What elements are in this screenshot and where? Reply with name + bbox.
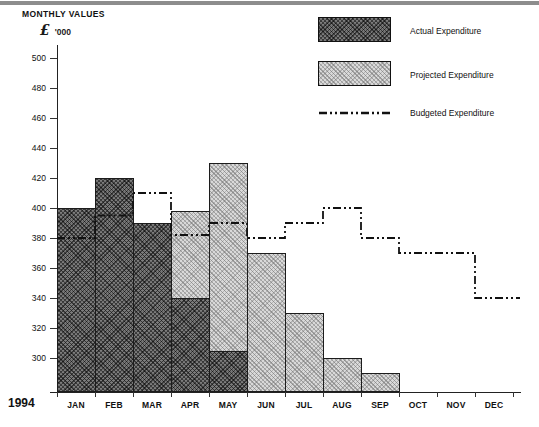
y-axis-tick-300 <box>50 358 57 359</box>
legend-item-projected: Projected Expenditure <box>318 61 539 86</box>
month-label-nov: NOV <box>437 400 475 410</box>
y-axis-tick-480 <box>50 88 57 89</box>
title-monthly-values: MONTHLY VALUES <box>22 9 105 19</box>
y-tick-label-380: 380 <box>20 233 46 243</box>
y-tick-label-480: 480 <box>20 83 46 93</box>
legend-item-budgeted: Budgeted Expenditure <box>318 105 539 121</box>
bar-projected-jun <box>247 253 286 392</box>
y-tick-label-300: 300 <box>20 353 46 363</box>
month-label-oct: OCT <box>399 400 437 410</box>
bar-projected-aug <box>323 358 362 392</box>
y-tick-label-440: 440 <box>20 143 46 153</box>
x-axis-tick-3 <box>171 392 172 397</box>
legend-item-actual: Actual Expenditure <box>318 17 539 42</box>
y-tick-label-340: 340 <box>20 293 46 303</box>
legend-label-projected: Projected Expenditure <box>410 70 494 80</box>
month-label-aug: AUG <box>323 400 361 410</box>
y-tick-label-500: 500 <box>20 53 46 63</box>
x-axis-tick-12 <box>513 392 514 397</box>
month-label-jul: JUL <box>285 400 323 410</box>
bar-actual-feb <box>95 178 134 392</box>
actual-swatch-icon <box>318 17 391 42</box>
month-label-jan: JAN <box>57 400 95 410</box>
bar-projected-sep <box>361 373 400 392</box>
y-axis-tick-360 <box>50 268 57 269</box>
legend: Actual Expenditure Projected Expenditure… <box>318 0 539 130</box>
x-axis-tick-9 <box>399 392 400 397</box>
x-axis-tick-6 <box>285 392 286 397</box>
legend-label-budgeted: Budgeted Expenditure <box>410 108 494 118</box>
bar-actual-apr <box>171 298 210 392</box>
y-axis-tick-440 <box>50 148 57 149</box>
budget-line-sample-icon <box>318 105 393 121</box>
pound-sign: £ <box>40 22 50 38</box>
bar-projected-jul <box>285 313 324 392</box>
month-label-may: MAY <box>209 400 247 410</box>
x-axis-tick-8 <box>361 392 362 397</box>
bar-actual-jan <box>57 208 96 392</box>
bar-actual-may <box>209 351 248 393</box>
month-label-feb: FEB <box>95 400 133 410</box>
y-tick-label-420: 420 <box>20 173 46 183</box>
x-axis-tick-1 <box>95 392 96 397</box>
projected-swatch-icon <box>318 61 391 86</box>
x-axis-tick-7 <box>323 392 324 397</box>
y-tick-label-400: 400 <box>20 203 46 213</box>
y-axis-tick-460 <box>50 118 57 119</box>
x-axis-tick-10 <box>437 392 438 397</box>
x-axis-tick-0 <box>57 392 58 397</box>
y-axis-tick-500 <box>50 58 57 59</box>
month-label-sep: SEP <box>361 400 399 410</box>
month-label-dec: DEC <box>475 400 513 410</box>
y-tick-label-320: 320 <box>20 323 46 333</box>
x-axis-tick-4 <box>209 392 210 397</box>
y-axis-tick-340 <box>50 298 57 299</box>
y-tick-label-360: 360 <box>20 263 46 273</box>
x-axis-tick-11 <box>475 392 476 397</box>
x-axis-tick-2 <box>133 392 134 397</box>
y-axis-tick-400 <box>50 208 57 209</box>
y-tick-label-460: 460 <box>20 113 46 123</box>
bar-actual-mar <box>133 223 172 392</box>
month-label-jun: JUN <box>247 400 285 410</box>
month-label-mar: MAR <box>133 400 171 410</box>
legend-label-actual: Actual Expenditure <box>410 26 481 36</box>
units-label: '000 <box>55 27 71 37</box>
y-axis-tick-320 <box>50 328 57 329</box>
title-units-row: £'000 <box>22 21 105 39</box>
chart-page: MONTHLY VALUES £'000 Actual Expenditure … <box>0 0 539 427</box>
y-axis-tick-380 <box>50 238 57 239</box>
year-label: 1994 <box>8 396 35 410</box>
chart-title: MONTHLY VALUES £'000 <box>22 9 105 39</box>
x-axis-tick-5 <box>247 392 248 397</box>
y-axis-tick-420 <box>50 178 57 179</box>
month-label-apr: APR <box>171 400 209 410</box>
